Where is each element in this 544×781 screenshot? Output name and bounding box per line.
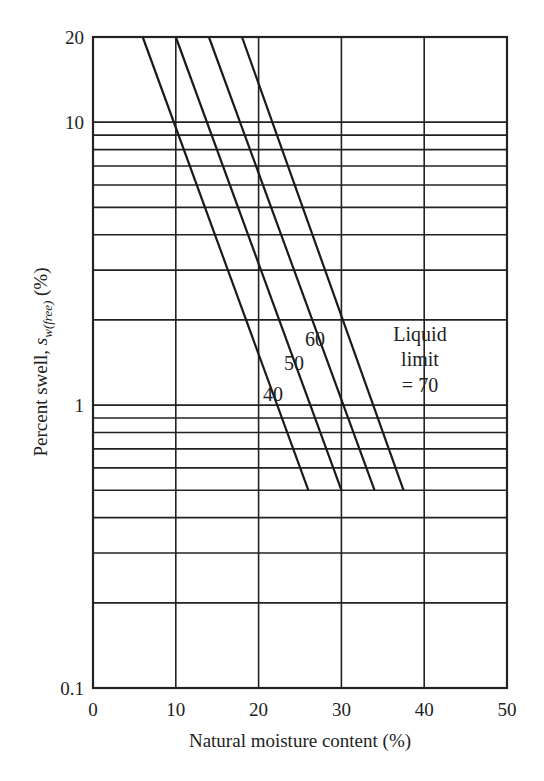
- legend-line-liquid: Liquid: [393, 323, 446, 346]
- x-tick-label: 30: [332, 699, 351, 720]
- x-tick-label: 50: [498, 699, 517, 720]
- curve-label-60: 60: [305, 328, 325, 350]
- legend-annotation: Liquid limit = 70: [393, 323, 446, 396]
- curve-label-40: 40: [263, 383, 283, 405]
- x-tick-label: 10: [166, 699, 185, 720]
- x-tick-label: 0: [88, 699, 98, 720]
- y-axis-label: Percent swell, sw(free) (%): [30, 267, 55, 456]
- x-axis-ticks: 01020304050: [88, 699, 516, 720]
- liquid-limit-line-40: [143, 37, 309, 490]
- legend-line-limit: limit: [401, 348, 439, 370]
- x-tick-label: 20: [249, 699, 268, 720]
- x-tick-label: 40: [415, 699, 434, 720]
- y-tick-label: 20: [65, 27, 84, 48]
- liquid-limit-lines: [143, 37, 404, 490]
- liquid-limit-line-60: [209, 37, 375, 490]
- y-axis-ticks: 0.111020: [60, 27, 84, 699]
- liquid-limit-line-70: [242, 37, 404, 490]
- y-tick-label: 10: [65, 112, 84, 133]
- y-tick-label: 1: [75, 395, 85, 416]
- y-tick-label: 0.1: [60, 678, 84, 699]
- curve-label-50: 50: [284, 352, 304, 374]
- swell-chart: 01020304050 0.111020 Natural moisture co…: [0, 0, 544, 781]
- x-axis-label: Natural moisture content (%): [189, 730, 411, 752]
- legend-line-value: = 70: [402, 374, 438, 396]
